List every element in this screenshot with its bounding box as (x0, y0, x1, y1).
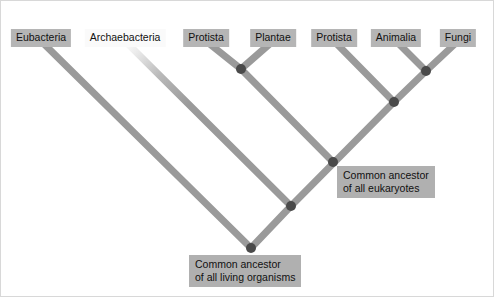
node-archaeal-split (286, 201, 296, 211)
branch-plant-clade-stem (241, 69, 333, 162)
taxon-label-fungi: Fungi (440, 29, 476, 47)
taxon-label-archaebacteria: Archaebacteria (85, 29, 166, 47)
taxon-label-eubacteria: Eubacteria (11, 29, 71, 47)
ancestor-label-universal-ancestor: Common ancestorof all living organisms (189, 255, 301, 287)
ancestor-label-line-2: of all living organisms (195, 271, 295, 284)
taxon-label-plantae: Plantae (250, 29, 296, 47)
branch-eubacteria (41, 41, 251, 248)
taxon-label-protista_left: Protista (183, 29, 229, 47)
branch-layer (41, 41, 458, 248)
branch-protista-right (334, 41, 394, 102)
taxon-label-animalia: Animalia (371, 29, 421, 47)
node-opisthokont (389, 97, 399, 107)
ancestor-label-eukaryote-ancestor: Common ancestorof all eukaryotes (337, 166, 435, 198)
phylogenetic-tree-figure: EubacteriaArchaebacteriaProtistaPlantaeP… (0, 0, 494, 297)
node-plant-protist (236, 64, 246, 74)
branch-root-right (251, 206, 291, 248)
ancestor-label-line-2: of all eukaryotes (343, 182, 429, 195)
ancestor-label-line-1: Common ancestor (195, 258, 295, 271)
taxon-label-protista_right: Protista (311, 29, 357, 47)
ancestor-label-line-1: Common ancestor (343, 169, 429, 182)
node-root (246, 243, 256, 253)
node-animalia-fungi (421, 66, 431, 76)
branch-opisthokont-stem (394, 71, 426, 102)
branch-archaebacteria (125, 41, 291, 206)
